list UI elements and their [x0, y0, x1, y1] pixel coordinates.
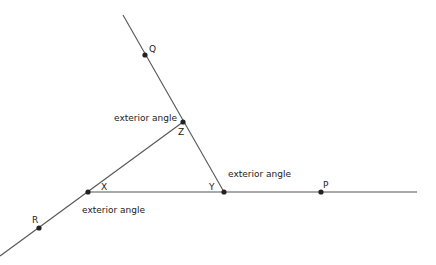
point-z	[180, 119, 185, 124]
label-r: R	[32, 215, 38, 225]
exterior-angle-label-z: exterior angle	[114, 113, 177, 123]
label-x: X	[101, 182, 107, 192]
point-r	[36, 225, 41, 230]
exterior-angle-label-x: exterior angle	[82, 205, 145, 215]
exterior-angle-label-y: exterior angle	[228, 169, 291, 179]
point-y	[221, 189, 226, 194]
label-p: P	[323, 180, 329, 190]
label-y: Y	[208, 182, 215, 192]
triangle-exterior-angles-diagram: Q Z X Y P R exterior angle exterior angl…	[0, 0, 436, 265]
point-q	[142, 52, 147, 57]
label-z: Z	[178, 127, 184, 137]
point-x	[85, 189, 90, 194]
line-rxz	[0, 122, 183, 256]
point-p	[318, 189, 323, 194]
line-qzy	[123, 15, 224, 192]
label-q: Q	[149, 44, 156, 54]
